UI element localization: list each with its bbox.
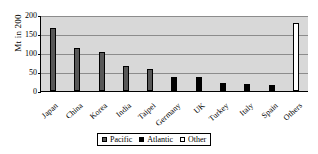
- y-axis-tick-labels: 050100150200: [12, 12, 37, 93]
- bar-slot: [187, 16, 211, 91]
- y-tick-label: 150: [25, 31, 37, 39]
- legend-label: Atlantic: [147, 135, 173, 144]
- bar-slot: [162, 16, 186, 91]
- bar[interactable]: [171, 77, 177, 91]
- y-tick-mark: [38, 16, 41, 17]
- bar[interactable]: [123, 66, 129, 91]
- bar[interactable]: [244, 84, 250, 91]
- bar-slot: [211, 16, 235, 91]
- legend-swatch-icon: [139, 137, 144, 142]
- y-tick-label: 200: [25, 12, 37, 20]
- bar[interactable]: [74, 48, 80, 91]
- legend-label: Pacific: [110, 135, 132, 144]
- legend-entry[interactable]: Other: [180, 135, 206, 144]
- bar-slot: [65, 16, 89, 91]
- legend-swatch-icon: [102, 137, 107, 142]
- plot-frame: [40, 16, 308, 92]
- y-tick-label: 50: [29, 69, 37, 77]
- y-tick-mark: [38, 35, 41, 36]
- bar[interactable]: [50, 28, 56, 91]
- bar[interactable]: [220, 83, 226, 91]
- bar-slot: [235, 16, 259, 91]
- bar[interactable]: [269, 85, 275, 91]
- bar-slot: [284, 16, 308, 91]
- legend-entry[interactable]: Atlantic: [139, 135, 173, 144]
- y-tick-label: 100: [25, 50, 37, 58]
- bar-chart: Mt in 200 050100150200 JapanChinaKoreaIn…: [0, 0, 318, 154]
- bar-slot: [90, 16, 114, 91]
- bar-slot: [41, 16, 65, 91]
- bar[interactable]: [147, 69, 153, 91]
- bar-series-group: [41, 16, 308, 91]
- bar-slot: [114, 16, 138, 91]
- legend-entry[interactable]: Pacific: [102, 135, 132, 144]
- y-tick-mark: [38, 92, 41, 93]
- bar[interactable]: [99, 52, 105, 91]
- bar-slot: [138, 16, 162, 91]
- x-tick-label-slot: Others: [258, 94, 298, 112]
- legend-swatch-icon: [180, 137, 185, 142]
- y-tick-mark: [38, 54, 41, 55]
- legend-label: Other: [188, 135, 206, 144]
- plot-area: [41, 16, 308, 91]
- y-tick-mark: [38, 73, 41, 74]
- x-tick-label: Others: [282, 101, 304, 122]
- x-axis-tick-labels: JapanChinaKoreaIndiaTaipeiGermanyUKTurke…: [40, 94, 308, 128]
- bar-slot: [259, 16, 283, 91]
- bar[interactable]: [293, 23, 299, 91]
- bar[interactable]: [196, 77, 202, 91]
- chart-legend: PacificAtlanticOther: [97, 133, 211, 146]
